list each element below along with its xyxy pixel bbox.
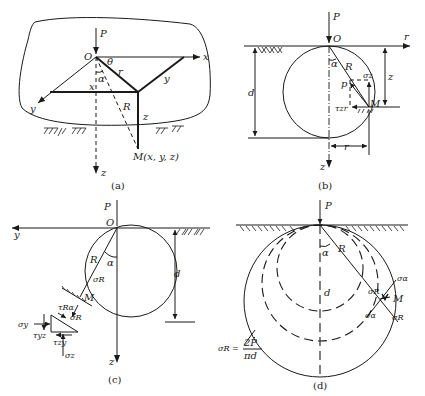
caption-d: (d) [313, 380, 327, 391]
p-vector-b [350, 83, 369, 107]
label-y-proj-a: y [163, 73, 170, 84]
caption-a: (a) [111, 180, 125, 191]
label-z-dim-b: z [387, 71, 394, 82]
caption-c: (c) [108, 374, 122, 385]
point-M-marker-d [380, 294, 390, 300]
label-P-d: P [324, 200, 332, 211]
stress-diagram-figure: P O x y z θ α r R x y z M(x, y, z) (a) P… [0, 0, 425, 396]
label-alpha-c: α [107, 257, 114, 268]
label-sigma-R-out-d: σR [392, 313, 403, 322]
label-R-c: R [89, 254, 98, 265]
z-axis-arrowhead-b [326, 160, 332, 168]
ground-hatch-b [258, 47, 282, 53]
label-M-d: M [392, 293, 404, 304]
formula-denominator-d: πd [243, 350, 257, 361]
formula-lhs-d: σR = [218, 344, 239, 353]
label-y-axis-a: y [29, 103, 36, 114]
panel-b: P O r z α R p σz τzr M z [244, 11, 410, 191]
label-sigma-R-inner-d: σR [368, 287, 379, 296]
label-sigma-a-top-d: σα [397, 274, 408, 283]
label-tau-zy-c: τzy [53, 338, 67, 347]
y-projection-a [138, 57, 184, 92]
label-d-c: d [174, 268, 180, 279]
label-z-axis-b: z [319, 161, 326, 172]
label-tau-yz-c: τyz [33, 331, 47, 340]
panel-a: P O x y z θ α r R x y z M(x, y, z) (a) [19, 18, 210, 191]
label-sigma-z-b: σz [363, 71, 373, 80]
formula-numerator-d: 2P [243, 337, 257, 348]
label-P-c: P [103, 201, 111, 212]
label-d-d: d [324, 287, 330, 298]
label-alpha-d: α [322, 247, 329, 258]
ground-hatch-c [176, 229, 204, 235]
label-x-axis-a: x [203, 51, 209, 62]
label-z-axis-a: z [100, 167, 107, 178]
label-x-proj-a: x [89, 81, 95, 92]
ground-hatch-a [44, 126, 184, 136]
y-axis-a [38, 57, 96, 103]
R-line-a [96, 57, 138, 149]
tau-Ra-arrow-c [58, 313, 66, 318]
label-sigma-a-bottom-d: σα [365, 311, 376, 320]
label-z-axis-c: z [108, 356, 115, 367]
panel-d: P d α R M σα σR σα σR σR = 2P πd (d) [218, 200, 408, 391]
label-theta-a: θ [107, 56, 113, 67]
label-alpha-b: α [331, 58, 338, 69]
label-R-a: R [122, 101, 131, 112]
label-sigma-R-c: σR [93, 275, 104, 284]
label-sigma-R2-c: σR [70, 313, 81, 322]
panel-c: P O y z α R σR M d σR τRα σy τyz [12, 200, 210, 385]
label-O-c: O [106, 217, 114, 228]
label-P-b: P [332, 11, 340, 22]
stress-bulb-circle-c [85, 225, 177, 317]
label-d-b: d [248, 87, 254, 98]
label-point-M-a: M(x, y, z) [132, 151, 179, 162]
label-alpha-a: α [98, 73, 105, 84]
label-tau-zr-b: τzr [335, 104, 349, 113]
label-y-axis-c: y [13, 229, 20, 240]
label-sigma-y-c: σy [18, 320, 28, 329]
label-tau-Ra-c: τRα [58, 303, 74, 312]
label-R-d: R [337, 243, 346, 254]
label-z-proj-a: z [142, 111, 149, 122]
label-r-a: r [118, 66, 124, 77]
z-axis-arrowhead-c [114, 355, 120, 363]
label-r-axis-b: r [404, 31, 410, 42]
label-P-a: P [99, 28, 107, 39]
caption-b: (b) [318, 180, 332, 191]
label-R-b: R [344, 61, 353, 72]
label-O-b: O [333, 33, 341, 44]
label-p-b: p [341, 78, 348, 89]
z-axis-arrowhead-a [93, 166, 99, 174]
label-sigma-z-c: σz [65, 351, 75, 360]
